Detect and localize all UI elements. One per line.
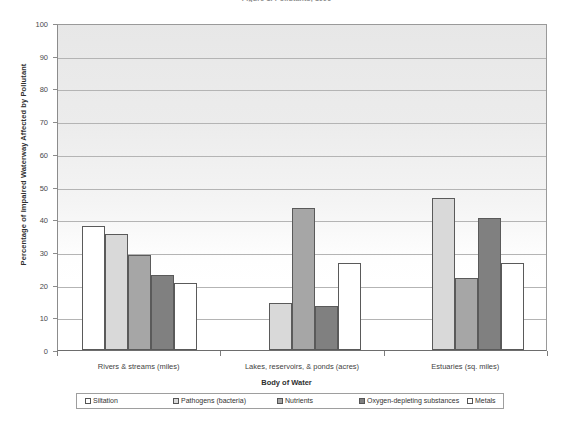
x-axis-category-label: Lakes, reservoirs, & ponds (acres) bbox=[212, 362, 392, 371]
y-axis-tick-mark bbox=[53, 286, 57, 287]
chart-title: Figure 1. Pollutants, 1996 bbox=[0, 0, 573, 2]
y-axis-tick-mark bbox=[53, 24, 57, 25]
bar-nutrients bbox=[292, 208, 315, 350]
bar-nutrients bbox=[128, 255, 151, 350]
x-axis-tick-mark bbox=[57, 351, 58, 356]
bar-siltation bbox=[82, 226, 105, 350]
bar-metals bbox=[501, 263, 524, 350]
legend-swatch-icon bbox=[173, 398, 179, 404]
legend-label: Oxygen-depleting substances bbox=[367, 397, 459, 404]
y-axis-tick-mark bbox=[53, 220, 57, 221]
y-axis-tick-mark bbox=[53, 188, 57, 189]
bar-metals bbox=[174, 283, 197, 350]
bar-pathogens-bacteria bbox=[432, 198, 455, 350]
y-axis-tick-label: 20 bbox=[18, 282, 48, 291]
gridline bbox=[58, 123, 546, 124]
y-axis-tick-mark bbox=[53, 57, 57, 58]
y-axis-tick-mark bbox=[53, 318, 57, 319]
legend-swatch-icon bbox=[277, 398, 283, 404]
bar-oxygen-depleting-substances bbox=[315, 306, 338, 350]
bar-oxygen-depleting-substances bbox=[151, 275, 174, 350]
bar-oxygen-depleting-substances bbox=[478, 218, 501, 350]
gridline bbox=[58, 189, 546, 190]
y-axis-label: Percentage of Impaired Waterway Affected… bbox=[19, 50, 28, 280]
legend-label: Siltation bbox=[93, 397, 118, 404]
x-axis-tick-mark bbox=[220, 351, 221, 356]
bar-chart: Figure 1. Pollutants, 1996 0102030405060… bbox=[0, 0, 573, 431]
legend-item-siltation[interactable]: Siltation bbox=[85, 397, 118, 404]
legend-item-oxygen-depleting-substances[interactable]: Oxygen-depleting substances bbox=[359, 397, 459, 404]
x-axis-label: Body of Water bbox=[0, 378, 573, 387]
y-axis-tick-label: 100 bbox=[18, 20, 48, 29]
legend-swatch-icon bbox=[467, 398, 473, 404]
y-axis-tick-mark bbox=[53, 155, 57, 156]
chart-legend: SiltationPathogens (bacteria)NutrientsOx… bbox=[76, 393, 504, 409]
legend-swatch-icon bbox=[85, 398, 91, 404]
legend-label: Nutrients bbox=[285, 397, 313, 404]
x-axis-tick-mark bbox=[384, 351, 385, 356]
legend-item-pathogens-bacteria[interactable]: Pathogens (bacteria) bbox=[173, 397, 246, 404]
bar-metals bbox=[338, 263, 361, 350]
y-axis-tick-mark bbox=[53, 253, 57, 254]
gridline bbox=[58, 156, 546, 157]
y-axis-tick-label: 10 bbox=[18, 314, 48, 323]
y-axis-tick-mark bbox=[53, 122, 57, 123]
x-axis-category-label: Rivers & streams (miles) bbox=[49, 362, 229, 371]
gridline bbox=[58, 90, 546, 91]
y-axis-tick-mark bbox=[53, 89, 57, 90]
x-axis-category-label: Estuaries (sq. miles) bbox=[375, 362, 555, 371]
bar-pathogens-bacteria bbox=[105, 234, 128, 350]
legend-item-nutrients[interactable]: Nutrients bbox=[277, 397, 313, 404]
bar-pathogens-bacteria bbox=[269, 303, 292, 350]
y-axis-tick-label: 0 bbox=[18, 347, 48, 356]
legend-label: Pathogens (bacteria) bbox=[181, 397, 246, 404]
plot-area bbox=[57, 24, 547, 351]
legend-label: Metals bbox=[475, 397, 496, 404]
x-axis-tick-mark bbox=[547, 351, 548, 356]
legend-swatch-icon bbox=[359, 398, 365, 404]
bar-nutrients bbox=[455, 278, 478, 350]
legend-item-metals[interactable]: Metals bbox=[467, 397, 496, 404]
gridline bbox=[58, 58, 546, 59]
